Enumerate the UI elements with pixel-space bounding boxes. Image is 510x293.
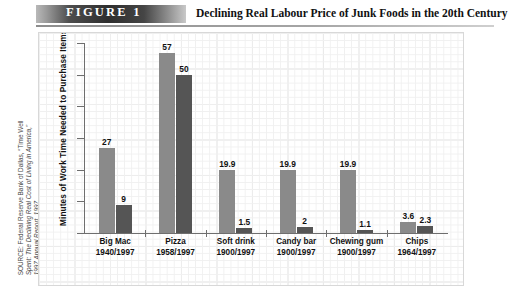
category-name: Chewing gum xyxy=(326,236,386,247)
bar-value-label: 1.5 xyxy=(228,217,260,227)
figure-title: Declining Real Labour Price of Junk Food… xyxy=(196,5,496,21)
figure-header: FIGURE 1 Declining Real Labour Price of … xyxy=(36,3,494,25)
x-axis-separator-tick xyxy=(387,230,388,237)
bar-value-label: 9 xyxy=(108,194,140,204)
x-axis-category-label: Chips1964/1997 xyxy=(387,236,447,258)
x-axis-category-label: Soft drink1900/1997 xyxy=(206,236,266,258)
category-years: 1900/1997 xyxy=(326,247,386,258)
x-axis-category-label: Chewing gum1900/1997 xyxy=(326,236,386,258)
category-name: Soft drink xyxy=(206,236,266,247)
bar-big-mac-earlier xyxy=(99,148,115,234)
x-axis-separator-tick xyxy=(326,230,327,237)
y-axis-tick xyxy=(77,75,84,76)
bar-chips-1997 xyxy=(417,226,433,233)
category-years: 1900/1997 xyxy=(206,247,266,258)
header-divider xyxy=(36,25,494,27)
bar-chewing-gum-1997 xyxy=(357,230,373,233)
category-name: Chips xyxy=(387,236,447,247)
category-years: 1964/1997 xyxy=(387,247,447,258)
y-axis-tick xyxy=(77,106,84,107)
y-axis-tick xyxy=(77,201,84,202)
y-axis-tick xyxy=(77,233,84,234)
bar-pizza-earlier xyxy=(159,53,175,234)
category-years: 1958/1997 xyxy=(145,247,205,258)
y-axis-title: Minutes of Work Time Needed to Purchase … xyxy=(58,36,68,226)
bar-value-label: 50 xyxy=(168,64,200,74)
chart-frame: Minutes of Work Time Needed to Purchase … xyxy=(38,32,464,286)
y-axis-tick xyxy=(77,138,84,139)
category-name: Candy bar xyxy=(266,236,326,247)
source-line-2: Spent: The Declining Real Cost of Living… xyxy=(25,25,33,275)
bar-value-label: 2 xyxy=(289,216,321,226)
bar-big-mac-1997 xyxy=(116,205,132,234)
x-axis-separator-tick xyxy=(206,230,207,237)
bar-value-label: 27 xyxy=(91,137,123,147)
plot-area: 279575019.91.519.9219.91.13.62.3 xyxy=(85,43,447,233)
source-line-1: SOURCE: Federal Reserve Bank of Dallas, … xyxy=(17,25,25,275)
category-years: 1940/1997 xyxy=(85,247,145,258)
bar-value-label: 2.3 xyxy=(409,215,441,225)
bar-group: 19.92 xyxy=(266,43,326,233)
y-axis-tick xyxy=(77,170,84,171)
x-axis-category-label: Pizza1958/1997 xyxy=(145,236,205,258)
x-axis-separator-tick xyxy=(266,230,267,237)
bar-group: 19.91.5 xyxy=(206,43,266,233)
bar-pizza-1997 xyxy=(176,75,192,233)
bar-group: 3.62.3 xyxy=(387,43,447,233)
bar-value-label: 19.9 xyxy=(272,159,304,169)
category-name: Pizza xyxy=(145,236,205,247)
bar-group: 19.91.1 xyxy=(326,43,386,233)
bar-group: 279 xyxy=(85,43,145,233)
bar-value-label: 57 xyxy=(151,42,183,52)
category-years: 1900/1997 xyxy=(266,247,326,258)
bar-group: 5750 xyxy=(145,43,205,233)
bar-value-label: 19.9 xyxy=(332,159,364,169)
x-axis-category-label: Big Mac1940/1997 xyxy=(85,236,145,258)
y-axis-tick xyxy=(77,43,84,44)
figure-badge-label: FIGURE 1 xyxy=(66,5,162,19)
bar-value-label: 19.9 xyxy=(211,159,243,169)
x-axis-separator-tick xyxy=(145,230,146,237)
bar-value-label: 1.1 xyxy=(349,219,381,229)
x-axis-category-label: Candy bar1900/1997 xyxy=(266,236,326,258)
bar-soft-drink-1997 xyxy=(236,228,252,233)
bar-candy-bar-1997 xyxy=(297,227,313,233)
category-name: Big Mac xyxy=(85,236,145,247)
